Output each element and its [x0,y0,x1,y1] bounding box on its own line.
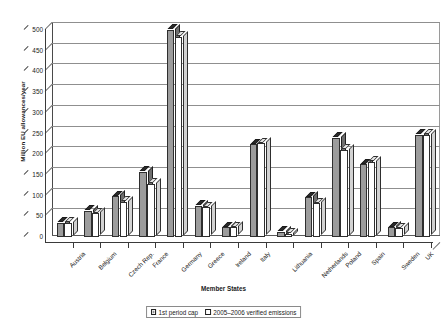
legend-item: 2005–2006 verified emissions [205,309,296,316]
plot-area [45,22,440,243]
bar-series-container [45,22,440,243]
x-axis-tick-labels: AustriaBelgiumCzech Rep.FranceGermanyGre… [0,248,447,288]
bar-side-face [431,129,436,235]
bar-front-face [415,135,422,236]
bar-group [45,22,440,243]
legend-item: 1st period cap [151,309,199,316]
chart-legend: 1st period cap2005–2006 verified emissio… [146,306,302,318]
x-axis-tick-label: Germany [180,250,203,273]
x-axis-title: Member States [0,285,447,292]
bar-cap [415,135,422,236]
x-axis-tick-label: Lithuania [290,250,313,273]
x-axis-tick-label: Spain [370,250,386,266]
x-axis-tick-label: UK [423,250,434,261]
legend-label: 2005–2006 verified emissions [213,309,296,316]
x-axis-tick-label: Italy [258,250,271,263]
bar-front-face [423,135,430,236]
bar-chart: Million EU allowances/year 0501001502002… [0,0,447,331]
x-axis-tick-label: Greece [206,250,226,270]
x-axis-tick-label: Sweden [400,250,421,271]
legend-swatch-ver [205,309,211,315]
legend-label: 1st period cap [159,309,199,316]
x-axis-tick-label: Ireland [233,250,252,269]
bar-verified [423,135,430,236]
legend-swatch-cap [151,309,157,315]
x-axis-tick-label: Belgium [96,250,117,271]
x-axis-tick-label: Austria [68,250,87,269]
